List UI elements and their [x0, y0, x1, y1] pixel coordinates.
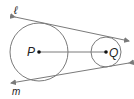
center-point-q: [104, 50, 108, 54]
label-q: Q: [109, 46, 118, 60]
tangent-line-l: [15, 17, 129, 41]
center-point-p: [37, 50, 41, 54]
tangent-circles-diagram: P Q ℓ m: [0, 0, 134, 99]
label-line-l: ℓ: [13, 4, 18, 16]
label-line-m: m: [12, 86, 20, 97]
tangent-line-m: [11, 63, 129, 83]
label-p: P: [27, 45, 35, 59]
